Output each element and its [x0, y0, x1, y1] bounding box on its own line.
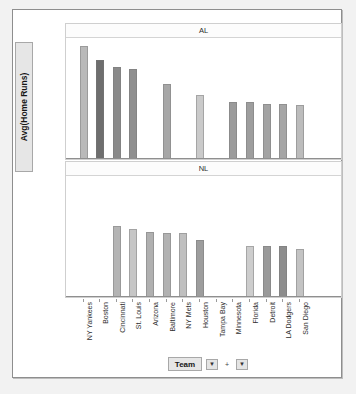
bar[interactable]	[229, 102, 237, 160]
x-tick-mark	[232, 299, 233, 302]
x-axis-control-rail: Team ▼ + ▼	[168, 357, 248, 371]
bar[interactable]	[113, 226, 121, 297]
bar[interactable]	[179, 233, 187, 297]
x-axis-title[interactable]: Team	[168, 357, 202, 371]
x-tick-mark	[99, 299, 100, 302]
bar[interactable]	[296, 249, 304, 297]
y-axis-control-rail: ▶ + ▶ Avg(Home Runs)	[16, 110, 38, 300]
x-tick-mark	[182, 299, 183, 302]
x-axis-label[interactable]: Arizona	[152, 302, 159, 326]
x-tick-mark	[266, 299, 267, 302]
x-tick-mark	[166, 299, 167, 302]
x-tick-mark	[299, 299, 300, 302]
panel-al-bars	[66, 38, 341, 159]
bar[interactable]	[296, 105, 304, 159]
x-axis-label[interactable]: Cincinnati	[119, 302, 126, 333]
panel-nl-baseline	[66, 296, 341, 297]
panel-nl-header: NL	[66, 162, 341, 176]
x-tick-mark	[216, 299, 217, 302]
x-axis-label[interactable]: Detroit	[269, 302, 276, 323]
panel-al: AL 0510152025	[65, 23, 342, 160]
x-tick-mark	[282, 299, 283, 302]
x-axis-labels: NY YankeesBostonCincinnatiSt. LouisArizo…	[65, 302, 342, 354]
bar[interactable]	[146, 232, 154, 297]
caret-down-icon-2: ▼	[239, 361, 245, 367]
chart-panels: AL 0510152025 NL 0510152025	[65, 23, 342, 300]
x-axis-label[interactable]: NY Mets	[185, 302, 192, 329]
panel-nl-plot: 0510152025	[66, 176, 341, 297]
x-axis-label[interactable]: Houston	[202, 302, 209, 328]
panel-nl: NL 0510152025	[65, 161, 342, 298]
bar[interactable]	[279, 104, 287, 159]
x-tick-mark	[83, 299, 84, 302]
x-tick-mark	[199, 299, 200, 302]
application-root: ▶ + ▶ Avg(Home Runs) AL 0510152025	[0, 0, 356, 394]
caret-down-icon: ▼	[209, 361, 215, 367]
bar[interactable]	[246, 102, 254, 159]
panel-al-plot: 0510152025	[66, 38, 341, 159]
bar[interactable]	[263, 246, 271, 297]
x-axis-label[interactable]: Minnesota	[235, 302, 242, 334]
chart-window: ▶ + ▶ Avg(Home Runs) AL 0510152025	[12, 9, 342, 378]
x-axis-add-button[interactable]: +	[222, 359, 232, 370]
plus-icon-x: +	[225, 361, 229, 368]
bar[interactable]	[129, 229, 137, 297]
bar[interactable]	[80, 46, 88, 159]
bar[interactable]	[246, 246, 254, 297]
bar[interactable]	[263, 104, 271, 159]
panel-al-header: AL	[66, 24, 341, 38]
x-axis-label[interactable]: San Diego	[302, 302, 309, 335]
x-axis-label[interactable]: Baltimore	[169, 302, 176, 332]
bar[interactable]	[113, 67, 121, 159]
panel-al-baseline	[66, 158, 341, 159]
x-axis-menu-button-2[interactable]: ▼	[236, 359, 248, 370]
bar[interactable]	[196, 240, 204, 298]
bar[interactable]	[96, 60, 104, 159]
bar[interactable]	[129, 69, 137, 159]
bar[interactable]	[279, 246, 287, 297]
x-tick-mark	[149, 299, 150, 302]
y-axis-title[interactable]: Avg(Home Runs)	[15, 42, 33, 172]
x-axis-label[interactable]: NY Yankees	[86, 302, 93, 340]
panel-nl-bars	[66, 176, 341, 297]
x-axis-label[interactable]: Florida	[252, 302, 259, 323]
x-axis-label[interactable]: Tampa Bay	[219, 302, 226, 337]
x-tick-mark	[116, 299, 117, 302]
x-axis-menu-button[interactable]: ▼	[206, 359, 218, 370]
x-tick-mark	[132, 299, 133, 302]
bar[interactable]	[163, 84, 171, 159]
x-axis-label[interactable]: St. Louis	[135, 302, 142, 329]
x-tick-mark	[249, 299, 250, 302]
bar[interactable]	[196, 95, 204, 159]
x-axis-label[interactable]: Boston	[102, 302, 109, 324]
bar[interactable]	[163, 233, 171, 297]
x-axis-label[interactable]: LA Dodgers	[285, 302, 292, 339]
